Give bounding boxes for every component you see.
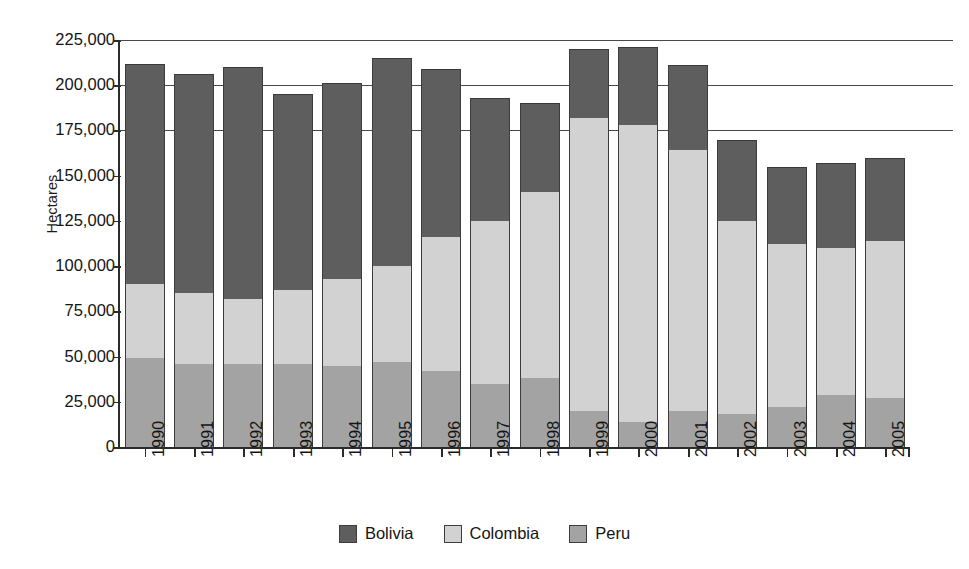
bar-segment-bolivia[interactable]: [470, 98, 510, 221]
cropped-title-remnant: [0, 0, 969, 8]
bar-segment-bolivia[interactable]: [816, 163, 856, 248]
bar-1998[interactable]: [520, 103, 560, 447]
bar-segment-colombia[interactable]: [668, 150, 708, 410]
chart-legend: BoliviaColombiaPeru: [0, 524, 969, 543]
bar-1991[interactable]: [174, 74, 214, 447]
x-tick-label-2003: 2003: [792, 421, 810, 457]
y-tick-label: 200,000: [15, 76, 115, 92]
y-axis-tick-labels: 225,000200,000175,000150,000125,000100,0…: [12, 0, 115, 569]
legend-label: Colombia: [470, 524, 540, 543]
bar-segment-colombia[interactable]: [767, 244, 807, 407]
bar-segment-bolivia[interactable]: [865, 158, 905, 241]
stacked-bar-chart: Hectares 225,000200,000175,000150,000125…: [0, 0, 969, 569]
bar-1992[interactable]: [223, 67, 263, 447]
x-tick-label-1994: 1994: [347, 421, 365, 457]
bar-segment-bolivia[interactable]: [767, 167, 807, 245]
bar-segment-bolivia[interactable]: [273, 94, 313, 289]
x-tick-label-1990: 1990: [150, 421, 168, 457]
y-tick-label: 75,000: [15, 302, 115, 318]
bar-1997[interactable]: [470, 98, 510, 447]
bar-2001[interactable]: [668, 65, 708, 447]
x-tick-label-1996: 1996: [446, 421, 464, 457]
legend-label: Peru: [595, 524, 630, 543]
y-tick-label: 175,000: [15, 121, 115, 137]
y-tick-mark: [113, 221, 121, 223]
y-tick-label: 100,000: [15, 257, 115, 273]
legend-label: Bolivia: [365, 524, 414, 543]
x-tick-label-1997: 1997: [495, 421, 513, 457]
bar-segment-bolivia[interactable]: [372, 58, 412, 266]
bar-segment-bolivia[interactable]: [520, 103, 560, 192]
bar-segment-bolivia[interactable]: [618, 47, 658, 125]
bar-segment-bolivia[interactable]: [174, 74, 214, 293]
legend-swatch-peru-icon: [569, 525, 587, 543]
bar-segment-bolivia[interactable]: [223, 67, 263, 299]
x-tick-label-1995: 1995: [397, 421, 415, 457]
x-tick-label-2004: 2004: [841, 421, 859, 457]
x-tick-label-1998: 1998: [545, 421, 563, 457]
bar-segment-bolivia[interactable]: [717, 140, 757, 221]
plot-area: [118, 40, 910, 447]
bar-segment-colombia[interactable]: [273, 290, 313, 364]
bar-segment-bolivia[interactable]: [668, 65, 708, 150]
bar-2005[interactable]: [865, 158, 905, 447]
y-tick-mark: [113, 266, 121, 268]
bar-segment-bolivia[interactable]: [569, 49, 609, 118]
bar-1993[interactable]: [273, 94, 313, 447]
bar-segment-colombia[interactable]: [223, 299, 263, 364]
x-tick-label-2005: 2005: [890, 421, 908, 457]
bar-segment-colombia[interactable]: [569, 118, 609, 411]
x-tick-label-1992: 1992: [248, 421, 266, 457]
bar-segment-colombia[interactable]: [618, 125, 658, 422]
gridline: [120, 40, 953, 41]
bar-segment-colombia[interactable]: [865, 241, 905, 398]
bar-1999[interactable]: [569, 49, 609, 447]
y-tick-mark: [113, 357, 121, 359]
plot-inner: [120, 40, 910, 447]
bar-2002[interactable]: [717, 140, 757, 448]
y-tick-label: 150,000: [15, 167, 115, 183]
bar-segment-colombia[interactable]: [174, 293, 214, 364]
x-tick-label-2001: 2001: [693, 421, 711, 457]
bar-1990[interactable]: [125, 64, 165, 447]
y-tick-label: 0: [15, 438, 115, 454]
bar-segment-colombia[interactable]: [816, 248, 856, 395]
bar-1995[interactable]: [372, 58, 412, 447]
legend-item-colombia[interactable]: Colombia: [444, 524, 540, 543]
x-tick-label-2002: 2002: [742, 421, 760, 457]
legend-item-peru[interactable]: Peru: [569, 524, 630, 543]
bar-segment-colombia[interactable]: [421, 237, 461, 371]
y-tick-label: 225,000: [15, 31, 115, 47]
x-axis-tick-labels: 1990199119921993199419951996199719981999…: [118, 455, 908, 525]
legend-swatch-bolivia-icon: [339, 525, 357, 543]
bar-2004[interactable]: [816, 163, 856, 447]
y-tick-mark: [113, 311, 121, 313]
bar-segment-bolivia[interactable]: [322, 83, 362, 278]
bar-segment-bolivia[interactable]: [125, 64, 165, 285]
y-tick-label: 50,000: [15, 348, 115, 364]
bar-2000[interactable]: [618, 47, 658, 447]
x-tick-mark: [908, 448, 910, 457]
y-tick-label: 25,000: [15, 393, 115, 409]
x-tick-label-1991: 1991: [199, 421, 217, 457]
y-tick-label: 125,000: [15, 212, 115, 228]
x-tick-label-1993: 1993: [298, 421, 316, 457]
bar-1994[interactable]: [322, 83, 362, 447]
bar-segment-colombia[interactable]: [372, 266, 412, 362]
bar-segment-colombia[interactable]: [322, 279, 362, 366]
bar-segment-bolivia[interactable]: [421, 69, 461, 237]
bar-2003[interactable]: [767, 167, 807, 447]
bar-segment-colombia[interactable]: [125, 284, 165, 358]
bar-1996[interactable]: [421, 69, 461, 447]
bar-segment-colombia[interactable]: [717, 221, 757, 415]
y-tick-mark: [113, 176, 121, 178]
bar-segment-colombia[interactable]: [520, 192, 560, 378]
legend-swatch-colombia-icon: [444, 525, 462, 543]
bar-segment-colombia[interactable]: [470, 221, 510, 384]
y-tick-mark: [113, 402, 121, 404]
x-tick-label-2000: 2000: [643, 421, 661, 457]
x-tick-label-1999: 1999: [594, 421, 612, 457]
legend-item-bolivia[interactable]: Bolivia: [339, 524, 414, 543]
